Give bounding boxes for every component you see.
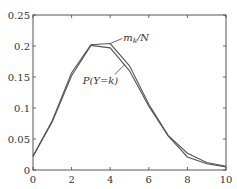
x-tick-label: 2: [68, 174, 74, 185]
x-tick-label: 4: [107, 174, 113, 185]
x-tick-label: 8: [184, 174, 190, 185]
annotation-label-mk: mk/N: [123, 32, 150, 45]
x-tick-label: 0: [30, 174, 36, 185]
y-tick-label: 0.15: [8, 72, 30, 83]
x-tick-label: 10: [220, 174, 233, 185]
data-series: [33, 44, 226, 167]
y-tick-label: 0.2: [14, 41, 30, 52]
y-tick-label: 0.1: [14, 103, 30, 114]
annotation-label-p: P(Y=k): [82, 75, 119, 86]
x-tick-label: 6: [146, 174, 152, 185]
series-line-theoretical: [33, 45, 226, 167]
y-tick-label: 0.25: [8, 10, 30, 21]
y-tick-label: 0: [24, 165, 30, 176]
annotation-leader-mk: [110, 39, 122, 44]
series-line-empirical: [33, 44, 226, 167]
line-chart: 024681000.050.10.150.20.25 mk/NP(Y=k): [0, 0, 237, 189]
annotations: mk/NP(Y=k): [82, 32, 151, 86]
y-tick-label: 0.05: [8, 134, 30, 145]
annotation-leader-p: [115, 65, 125, 75]
